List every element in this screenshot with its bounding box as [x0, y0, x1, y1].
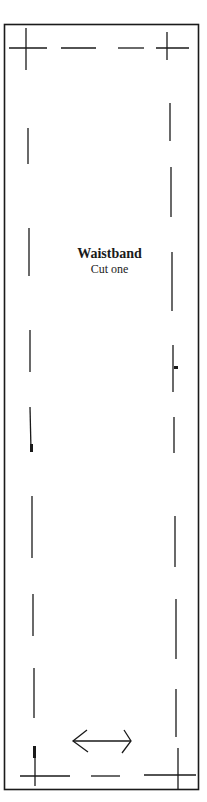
grainline-arrow-icon — [73, 730, 131, 753]
pattern-piece — [0, 0, 207, 802]
notch-marks-right — [174, 366, 178, 369]
cut-instruction: Cut one — [6, 262, 207, 277]
seam-line-right — [167, 32, 178, 790]
seam-line-left — [26, 28, 35, 786]
piece-name: Waistband — [6, 246, 207, 262]
seam-line-bottom — [20, 775, 196, 776]
